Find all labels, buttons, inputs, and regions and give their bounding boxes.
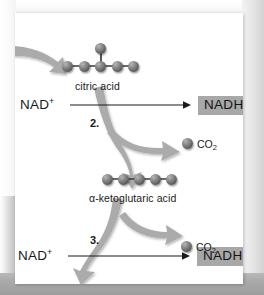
diagram-card: citric acid α-ketoglutaric acid NAD+ NAD…: [15, 13, 243, 284]
co2-text: CO: [196, 241, 212, 253]
co2-subscript: 2: [213, 143, 217, 152]
carbon-sphere: [150, 174, 161, 185]
page-background-left-upper: [0, 0, 16, 196]
carbon-sphere: [118, 174, 129, 185]
citric-acid-label: citric acid: [75, 81, 120, 92]
nad-text: NAD: [18, 248, 47, 263]
diagram-frame: citric acid α-ketoglutaric acid NAD+ NAD…: [0, 0, 264, 295]
alpha-ketoglutaric-acid-label: α-ketoglutaric acid: [89, 193, 176, 204]
carbon-sphere: [102, 174, 113, 185]
co2-label-2: CO2: [196, 242, 216, 253]
step-number-3: 3.: [90, 235, 99, 246]
nad-plus-label-2: NAD+: [18, 249, 53, 263]
co2-subscript: 2: [212, 246, 216, 255]
nad-superscript: +: [49, 96, 54, 106]
step-number-2: 2.: [90, 118, 99, 129]
carbon-sphere: [134, 174, 145, 185]
nadh-box-1: NADH: [198, 96, 243, 115]
co2-label-1: CO2: [197, 139, 217, 150]
co2-text: CO: [197, 138, 213, 150]
co2-sphere-2: [181, 241, 192, 252]
nad-plus-label-1: NAD+: [20, 98, 55, 112]
nad-superscript: +: [47, 247, 52, 257]
page-background-top: [0, 0, 264, 14]
carbon-sphere: [166, 174, 177, 185]
nad-text: NAD: [20, 97, 49, 112]
page-background-right: [242, 0, 264, 295]
co2-sphere-1: [182, 138, 193, 149]
